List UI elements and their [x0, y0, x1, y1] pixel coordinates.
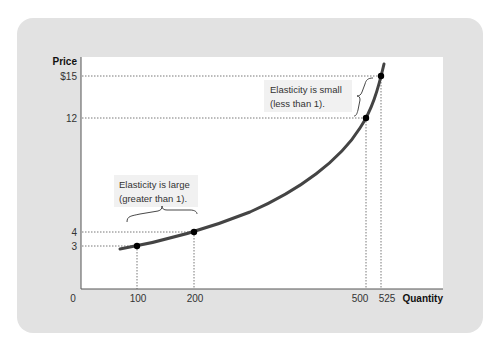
point-q100-p3 — [134, 243, 140, 249]
y-axis-title: Price — [53, 56, 78, 67]
brace-large-icon — [127, 206, 197, 222]
x-tick-200: 200 — [187, 293, 204, 304]
y-tick-3: 3 — [71, 241, 77, 252]
x-tick-500: 500 — [352, 293, 369, 304]
supply-elasticity-chart: Elasticity is large (greater than 1). El… — [0, 0, 494, 346]
point-q500-p12 — [363, 115, 369, 121]
x-tick-100: 100 — [130, 293, 147, 304]
note-small-line2: (less than 1). — [270, 98, 325, 109]
x-axis-title: Quantity — [402, 293, 443, 304]
origin-label: 0 — [70, 293, 76, 304]
x-tick-525: 525 — [379, 293, 396, 304]
y-tick-4: 4 — [71, 227, 77, 238]
point-q525-p15 — [378, 73, 384, 79]
y-tick-15: $15 — [60, 71, 77, 82]
note-large-line2: (greater than 1). — [119, 193, 187, 204]
note-small-line1: Elasticity is small — [270, 84, 342, 95]
y-tick-12: 12 — [66, 113, 78, 124]
note-large-line1: Elasticity is large — [119, 179, 190, 190]
point-q200-p4 — [191, 229, 197, 235]
